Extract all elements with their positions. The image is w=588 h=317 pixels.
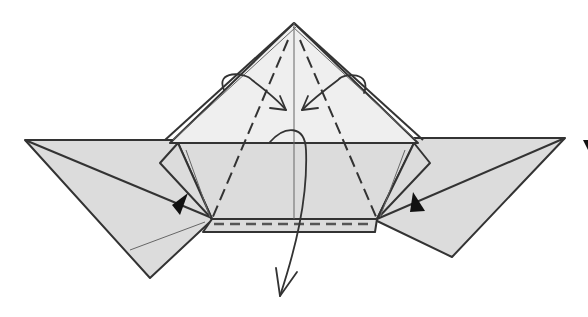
origami-diagram	[0, 0, 588, 317]
partial-symbol-right-edge	[583, 140, 588, 150]
bottom-band	[203, 219, 377, 232]
